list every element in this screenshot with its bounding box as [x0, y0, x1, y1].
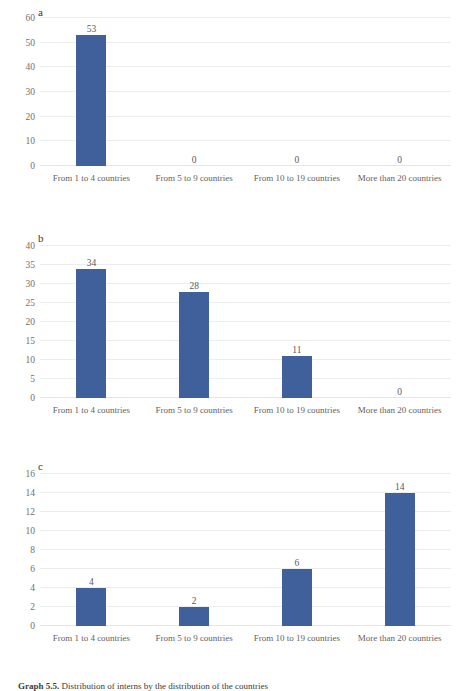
- x-axis-b: From 1 to 4 countriesFrom 5 to 9 countri…: [40, 404, 451, 416]
- y-axis-tick-label: 30: [26, 279, 36, 289]
- x-axis-tick-label: More than 20 countries: [348, 632, 451, 644]
- bar-slot: 14: [348, 474, 451, 626]
- bar-group-a: 53000: [40, 18, 451, 166]
- y-axis-tick-label: 25: [26, 298, 36, 308]
- bar: [385, 493, 415, 626]
- bar-value-label: 11: [292, 345, 301, 355]
- bar: [76, 588, 106, 626]
- bar-value-label: 0: [192, 155, 197, 165]
- bar: [179, 607, 209, 626]
- bar-value-label: 14: [395, 482, 405, 492]
- x-axis-tick-label: More than 20 countries: [348, 404, 451, 416]
- bar: [179, 292, 209, 398]
- plot-area-b: 0510152025303540 3428110: [40, 246, 451, 398]
- x-axis-tick-label: From 1 to 4 countries: [40, 632, 143, 644]
- y-axis-tick-label: 8: [30, 545, 35, 555]
- plot-area-a: 0102030405060 53000: [40, 18, 451, 166]
- figure-caption: Graph 5.5. Distribution of interns by th…: [18, 681, 455, 691]
- x-axis-tick-label: From 5 to 9 countries: [143, 632, 246, 644]
- bar: [282, 569, 312, 626]
- y-axis-tick-label: 16: [26, 469, 36, 479]
- y-axis-tick-label: 0: [30, 161, 35, 171]
- y-axis-tick-label: 10: [26, 526, 36, 536]
- caption-text: Distribution of interns by the distribut…: [62, 681, 268, 691]
- plot-area-c: 0246810121416 42614: [40, 474, 451, 626]
- y-axis-tick-label: 2: [30, 602, 35, 612]
- bar-slot: 0: [246, 18, 349, 166]
- bar: [282, 356, 312, 398]
- y-axis-tick-label: 0: [30, 621, 35, 631]
- chart-panel-a: a 0102030405060 53000 From 1 to 4 countr…: [0, 0, 465, 228]
- bar-value-label: 28: [189, 281, 199, 291]
- x-axis-tick-label: More than 20 countries: [348, 172, 451, 184]
- bar-value-label: 34: [87, 258, 97, 268]
- bar-value-label: 2: [192, 596, 197, 606]
- y-axis-tick-label: 5: [30, 374, 35, 384]
- y-axis-tick-label: 0: [30, 393, 35, 403]
- panel-letter-c: c: [38, 460, 43, 472]
- y-axis-tick-label: 20: [26, 317, 36, 327]
- x-axis-tick-label: From 1 to 4 countries: [40, 404, 143, 416]
- bar-slot: 6: [246, 474, 349, 626]
- bar-group-c: 42614: [40, 474, 451, 626]
- bar-value-label: 6: [295, 558, 300, 568]
- chart-panel-b: b 0510152025303540 3428110 From 1 to 4 c…: [0, 228, 465, 456]
- bar-slot: 28: [143, 246, 246, 398]
- x-axis-tick-label: From 10 to 19 countries: [246, 172, 349, 184]
- y-axis-tick-label: 14: [26, 488, 36, 498]
- y-axis-tick-label: 60: [26, 13, 36, 23]
- x-axis-tick-label: From 5 to 9 countries: [143, 172, 246, 184]
- bar-group-b: 3428110: [40, 246, 451, 398]
- caption-label: Graph 5.5.: [18, 681, 59, 691]
- bar-slot: 0: [348, 246, 451, 398]
- bar-value-label: 0: [397, 155, 402, 165]
- y-axis-tick-label: 12: [26, 507, 36, 517]
- bar-value-label: 4: [89, 577, 94, 587]
- chart-panel-c: c 0246810121416 42614 From 1 to 4 countr…: [0, 456, 465, 678]
- y-axis-tick-label: 4: [30, 583, 35, 593]
- y-axis-tick-label: 35: [26, 260, 36, 270]
- y-axis-tick-label: 50: [26, 38, 36, 48]
- bar: [76, 269, 106, 398]
- x-axis-tick-label: From 5 to 9 countries: [143, 404, 246, 416]
- bar-value-label: 0: [397, 387, 402, 397]
- y-axis-tick-label: 40: [26, 241, 36, 251]
- bar-slot: 11: [246, 246, 349, 398]
- y-axis-tick-label: 20: [26, 112, 36, 122]
- bar-slot: 0: [143, 18, 246, 166]
- x-axis-c: From 1 to 4 countriesFrom 5 to 9 countri…: [40, 632, 451, 644]
- bar-slot: 4: [40, 474, 143, 626]
- bar-value-label: 0: [295, 155, 300, 165]
- y-axis-tick-label: 6: [30, 564, 35, 574]
- bar-slot: 34: [40, 246, 143, 398]
- bar-slot: 53: [40, 18, 143, 166]
- y-axis-tick-label: 10: [26, 136, 36, 146]
- x-axis-tick-label: From 10 to 19 countries: [246, 632, 349, 644]
- y-axis-tick-label: 10: [26, 355, 36, 365]
- bar-slot: 2: [143, 474, 246, 626]
- x-axis-tick-label: From 1 to 4 countries: [40, 172, 143, 184]
- y-axis-tick-label: 15: [26, 336, 36, 346]
- bar-slot: 0: [348, 18, 451, 166]
- panel-letter-b: b: [38, 232, 44, 244]
- y-axis-tick-label: 30: [26, 87, 36, 97]
- y-axis-tick-label: 40: [26, 62, 36, 72]
- bar: [76, 35, 106, 166]
- x-axis-a: From 1 to 4 countriesFrom 5 to 9 countri…: [40, 172, 451, 184]
- x-axis-tick-label: From 10 to 19 countries: [246, 404, 349, 416]
- bar-value-label: 53: [87, 24, 97, 34]
